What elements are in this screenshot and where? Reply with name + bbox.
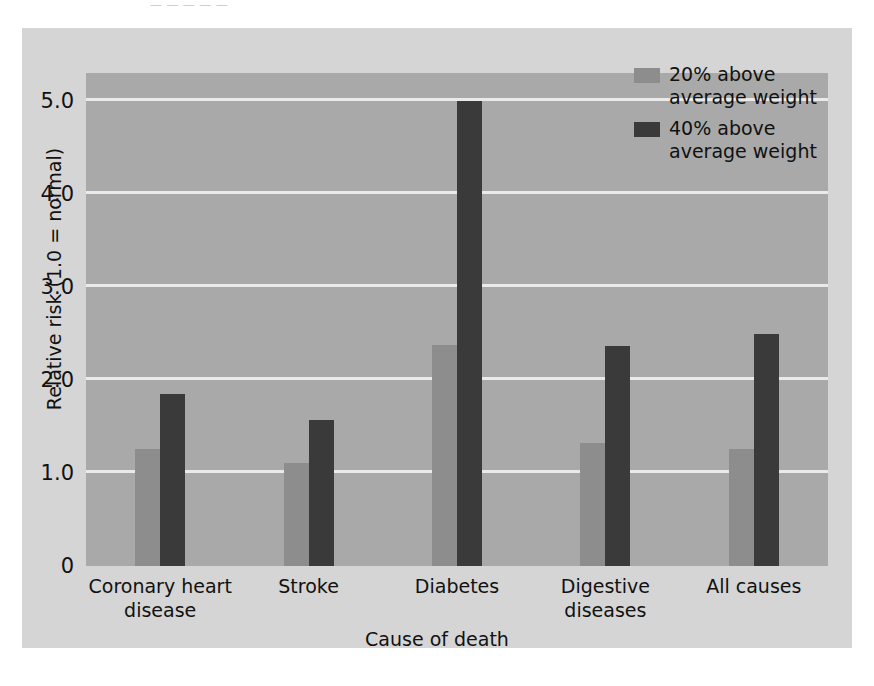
bar: [284, 463, 309, 566]
bar: [729, 449, 754, 566]
x-tick-label-line: All causes: [664, 574, 844, 598]
legend-label: 20% above average weight: [669, 63, 817, 109]
legend-swatch-20-percent: [634, 68, 660, 83]
chart-figure-panel: 01.02.03.04.05.0 Relative risk (1.0 = no…: [22, 28, 852, 648]
x-tick-label: All causes: [664, 574, 844, 598]
top-cutoff-text: — — — — —: [0, 0, 874, 14]
bar: [432, 345, 457, 566]
bar: [754, 334, 779, 566]
legend-entry: 20% above average weight: [634, 63, 844, 109]
x-tick-label-line: disease: [70, 598, 250, 622]
legend-entry: 40% above average weight: [634, 117, 844, 163]
bar: [135, 449, 160, 566]
x-axis-title: Cause of death: [22, 628, 852, 650]
bar-group: [284, 73, 334, 566]
bar: [580, 443, 605, 566]
x-tick-label-line: diseases: [515, 598, 695, 622]
bar: [160, 394, 185, 566]
bar: [605, 346, 630, 566]
bar: [309, 420, 334, 566]
legend-label: 40% above average weight: [669, 117, 817, 163]
legend-swatch-40-percent: [634, 122, 660, 137]
bar: [457, 101, 482, 566]
bar-group: [135, 73, 185, 566]
chart-legend: 20% above average weight40% above averag…: [634, 63, 844, 171]
bar-group: [580, 73, 630, 566]
bar-group: [432, 73, 482, 566]
y-axis-title: Relative risk (1.0 = normal): [43, 79, 65, 479]
